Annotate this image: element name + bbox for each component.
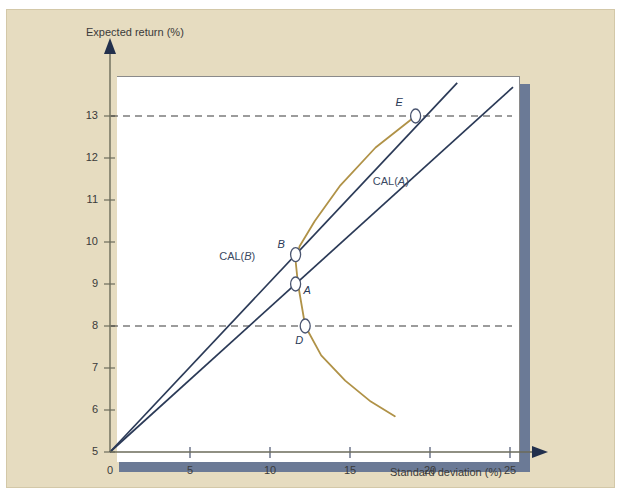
cal-label-B: CAL(B) — [219, 250, 255, 262]
point-label-A: A — [304, 284, 311, 296]
y-tick-label-13: 13 — [74, 109, 98, 121]
y-tick-label-11: 11 — [74, 193, 98, 205]
y-tick-label-5: 5 — [74, 445, 98, 457]
y-tick-label-8: 8 — [74, 319, 98, 331]
point-label-D: D — [295, 334, 303, 346]
x-tick-label-20: 20 — [418, 464, 442, 476]
y-tick-label-6: 6 — [74, 403, 98, 415]
point-marker-A — [291, 277, 301, 291]
series-group — [110, 83, 513, 452]
y-tick-label-12: 12 — [74, 151, 98, 163]
y-axis-arrowhead — [104, 38, 116, 54]
x-tick-label-25: 25 — [498, 464, 522, 476]
series-CALA — [110, 87, 513, 452]
series-efficient-frontier — [296, 116, 416, 416]
cal-label-A: CAL(A) — [373, 175, 409, 187]
y-axis-title: Expected return (%) — [86, 26, 184, 38]
axis-arrows-group — [104, 38, 548, 458]
x-tick-label-10: 10 — [258, 464, 282, 476]
chart-svg — [0, 0, 622, 495]
reference-lines-group — [111, 116, 512, 326]
point-label-B: B — [278, 238, 285, 250]
point-marker-B — [291, 248, 301, 262]
series-CALB — [110, 83, 457, 452]
y-tick-label-7: 7 — [74, 361, 98, 373]
x-axis-arrowhead — [532, 446, 548, 458]
point-marker-E — [411, 109, 421, 123]
figure-root: Expected return (%) Standard deviation (… — [0, 0, 622, 495]
y-tick-label-9: 9 — [74, 277, 98, 289]
y-tick-label-10: 10 — [74, 235, 98, 247]
point-label-E: E — [396, 96, 403, 108]
x-axis-title: Standard deviation (%) — [390, 466, 502, 478]
x-tick-label-0: 0 — [98, 464, 122, 476]
x-tick-label-5: 5 — [178, 464, 202, 476]
x-tick-label-15: 15 — [338, 464, 362, 476]
point-marker-D — [300, 319, 310, 333]
